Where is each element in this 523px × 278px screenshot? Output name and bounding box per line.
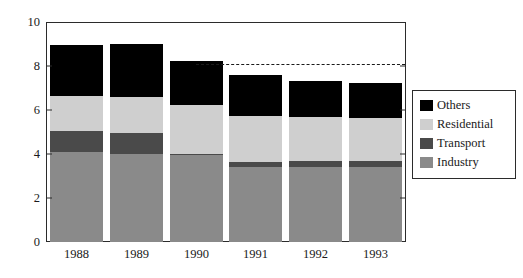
x-tick-label: 1992 [289, 248, 342, 261]
bar-segment-transport [289, 161, 342, 168]
bar-segment-industry [349, 167, 402, 242]
y-tick-mark [400, 154, 406, 155]
y-tick-mark [46, 154, 52, 155]
y-tick-mark [400, 198, 406, 199]
bar-segment-industry [170, 155, 223, 242]
bar-segment-others [170, 61, 223, 105]
legend-swatch-icon [420, 119, 433, 130]
bar-segment-residential [289, 117, 342, 161]
bar-segment-others [289, 81, 342, 116]
bar-1991 [229, 75, 282, 242]
y-tick-mark [46, 110, 52, 111]
chart-legend: OthersResidentialTransportIndustry [412, 90, 516, 179]
bar-segment-residential [229, 116, 282, 162]
legend-swatch-icon [420, 100, 433, 111]
bar-1992 [289, 81, 342, 242]
y-tick-mark [400, 66, 406, 67]
bar-segment-industry [110, 154, 163, 242]
x-tick-label: 1990 [170, 248, 223, 261]
bar-segment-residential [110, 97, 163, 133]
y-tick-mark [46, 66, 52, 67]
legend-item-label: Others [437, 99, 470, 112]
legend-item-label: Industry [437, 156, 479, 169]
bar-segment-transport [229, 162, 282, 168]
y-tick-mark [46, 198, 52, 199]
legend-item-label: Residential [437, 118, 493, 131]
bar-1989 [110, 44, 163, 242]
x-tick-label: 1993 [349, 248, 402, 261]
legend-item-others[interactable]: Others [420, 96, 509, 115]
legend-item-transport[interactable]: Transport [420, 134, 509, 153]
x-tick-label: 1991 [229, 248, 282, 261]
bar-segment-others [110, 44, 163, 97]
bar-segment-industry [229, 167, 282, 242]
bar-1988 [50, 45, 103, 242]
bar-segment-residential [50, 96, 103, 131]
stacked-bar-chart: 0246810 OthersResidentialTransportIndust… [0, 0, 523, 278]
legend-item-industry[interactable]: Industry [420, 153, 509, 172]
x-tick-label: 1989 [110, 248, 163, 261]
bar-segment-residential [170, 105, 223, 155]
bar-segment-transport [170, 154, 223, 155]
bar-segment-transport [349, 161, 402, 168]
bar-1990 [170, 61, 223, 243]
bar-segment-others [229, 75, 282, 116]
legend-item-label: Transport [437, 137, 485, 150]
legend-swatch-icon [420, 157, 433, 168]
legend-swatch-icon [420, 138, 433, 149]
bar-1993 [349, 83, 402, 243]
reference-line [196, 64, 405, 65]
bar-segment-others [50, 45, 103, 96]
bar-segment-industry [50, 152, 103, 242]
bar-segment-transport [50, 131, 103, 152]
y-tick-mark [400, 110, 406, 111]
bar-segment-transport [110, 133, 163, 154]
bar-segment-others [349, 83, 402, 118]
legend-item-residential[interactable]: Residential [420, 115, 509, 134]
bar-segment-industry [289, 167, 342, 242]
bar-segment-residential [349, 118, 402, 161]
x-tick-label: 1988 [50, 248, 103, 261]
